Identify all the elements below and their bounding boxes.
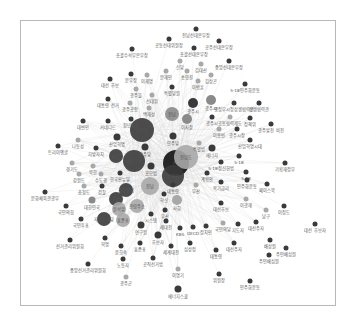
node-circle: [68, 238, 73, 243]
node-label: 지방자치: [88, 151, 104, 158]
graph-node: 상생협력관: [249, 101, 269, 113]
node-label: 총괄선대본부장: [180, 51, 208, 58]
node-circle: [248, 138, 253, 143]
node-label: 공정경제: [118, 187, 134, 194]
graph-node: 기획재정부: [275, 161, 295, 173]
node-circle: [130, 47, 135, 52]
node-circle: [209, 145, 216, 152]
node-circle: [124, 275, 129, 280]
node-circle: [129, 117, 134, 122]
node-circle: [282, 204, 287, 209]
graph-node: 민주화운동: [240, 279, 260, 291]
node-label: 광주군: [120, 280, 132, 287]
node-label: 대선주자: [226, 246, 242, 253]
node-label: 대선후보: [213, 206, 229, 213]
node-label: 공모법: [145, 170, 157, 176]
graph-node: 대통령: [210, 248, 222, 260]
node-circle: [103, 236, 108, 241]
graph-node: 신당: [176, 59, 184, 70]
node-circle: [244, 170, 249, 175]
node-circle: [147, 106, 152, 111]
node-circle: [194, 183, 199, 188]
node-label: 부산: [161, 213, 169, 220]
node-label: 후보자: [152, 239, 164, 246]
node-circle: [245, 178, 250, 183]
graph-node: 중앙선거관리위원회: [70, 262, 106, 274]
node-label: 전남도: [180, 154, 192, 160]
node-label: 사회: [173, 205, 181, 212]
node-circle: [283, 161, 288, 166]
node-label: 5·18정신헌법: [208, 165, 233, 171]
node-circle: [221, 221, 226, 226]
node-label: 연구원: [135, 229, 147, 236]
node-label: 국민투표: [73, 222, 89, 229]
node-circle: [265, 182, 270, 187]
node-label: 세대전: [160, 224, 172, 231]
node-circle: [99, 172, 104, 177]
node-circle: [56, 144, 61, 149]
node-label: 전남: [146, 183, 154, 189]
node-circle: [148, 163, 155, 170]
node-circle: [145, 73, 150, 78]
node-label: 민주화운동: [240, 284, 260, 291]
node-circle: [204, 224, 209, 229]
node-circle: [267, 253, 272, 258]
node-circle: [217, 272, 222, 277]
node-label: 이명기: [172, 272, 184, 279]
node-label: 배상원: [264, 243, 276, 250]
node-label: 상생협력관: [249, 106, 269, 113]
graph-node: 공주선대본부장: [205, 39, 233, 51]
node-label: 윤희숙: [115, 249, 127, 256]
node-circle: [81, 119, 86, 124]
node-label: 수도권: [95, 177, 107, 184]
node-label: 선거관리위원회: [56, 243, 84, 250]
node-label: 전남: [168, 111, 176, 117]
node-label: 나동성: [72, 143, 84, 150]
node-label: 공주선대본부장: [205, 44, 233, 51]
graph-node: 이재명: [141, 73, 153, 85]
node-circle: [82, 184, 87, 189]
node-circle: [121, 257, 126, 262]
node-circle: [268, 238, 273, 243]
graph-node: 충청도: [78, 184, 90, 195]
graph-node: 혁명: [101, 236, 109, 248]
node-label: 남구: [262, 213, 270, 220]
node-circle: [228, 115, 233, 120]
graph-node: 이용빈: [213, 127, 225, 139]
node-label: 대통령: [210, 253, 222, 260]
node-label: 자유한국당: [94, 216, 114, 223]
graph-node: 총괄수석부본부장: [116, 47, 148, 59]
node-circle: [151, 256, 156, 261]
graph-node: 광주시: [187, 98, 199, 115]
node-label: 이광재: [240, 202, 252, 209]
node-label: 행정부시장상생협력관: [214, 106, 254, 113]
node-label: 대통령: [167, 188, 179, 195]
node-circle: [237, 154, 242, 159]
node-circle: [77, 172, 82, 177]
node-circle: [119, 244, 124, 249]
node-label: 공동협력제도: [218, 120, 242, 127]
node-label: 대선후보: [126, 158, 142, 165]
graph-node: 김대산: [195, 62, 207, 74]
node-circle: [199, 62, 204, 67]
node-label: 문화체육관광부: [31, 195, 59, 202]
node-label: 페이스북: [259, 187, 275, 194]
node-label: 검찰: [98, 189, 106, 195]
node-label: 광주시: [206, 120, 218, 127]
node-circle: [114, 134, 121, 141]
node-label: 정책위: [244, 121, 256, 128]
graph-node: 문재인: [160, 69, 172, 81]
node-circle: [106, 97, 111, 102]
graph-node: 전남: [165, 107, 179, 121]
node-label: 에너지: [206, 152, 218, 159]
node-circle: [172, 195, 182, 205]
node-label: 홍준표: [117, 217, 129, 223]
node-circle: [118, 171, 123, 176]
node-label: 광주공항: [122, 106, 138, 113]
node-label: 공직선거법: [143, 261, 163, 268]
node-label: 대한민국: [84, 204, 100, 211]
graph-node: OECD: [187, 225, 199, 236]
node-label: 이용섭: [136, 127, 148, 134]
node-label: 전남선대본부장: [182, 32, 210, 39]
node-label: 이병훈: [192, 84, 204, 91]
